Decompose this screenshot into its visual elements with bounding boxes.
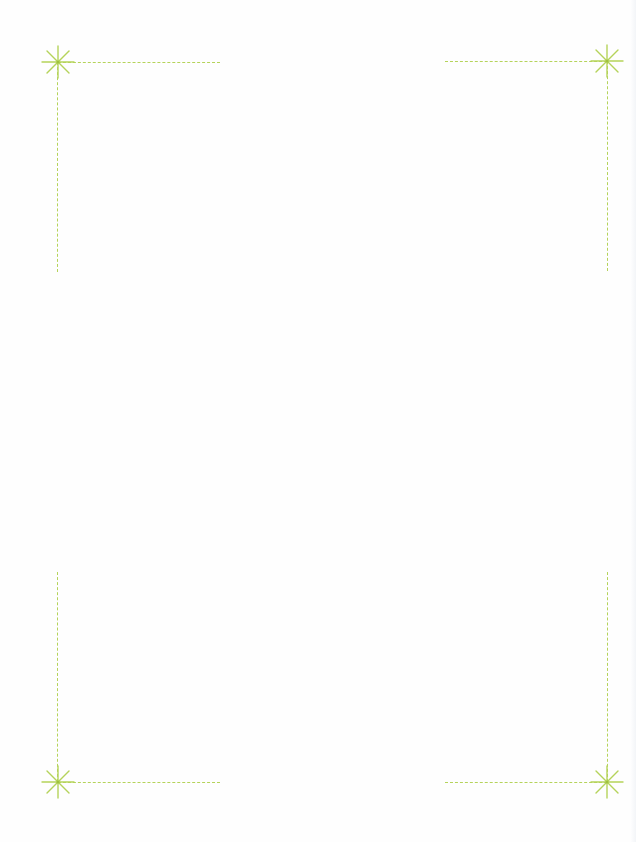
dashed-line-vertical [57,62,58,272]
dashed-line-vertical [607,61,608,271]
asterisk-star-icon [41,45,75,79]
asterisk-star-icon [590,765,624,799]
dashed-line-horizontal [58,62,220,63]
asterisk-star-icon [41,765,75,799]
dashed-line-horizontal [445,782,607,783]
dashed-line-vertical [57,572,58,782]
asterisk-star-icon [590,44,624,78]
dashed-line-horizontal [445,61,607,62]
dashed-line-horizontal [58,782,220,783]
blank-page [0,0,636,842]
dashed-line-vertical [607,572,608,782]
page-edge-shadow [630,0,636,842]
